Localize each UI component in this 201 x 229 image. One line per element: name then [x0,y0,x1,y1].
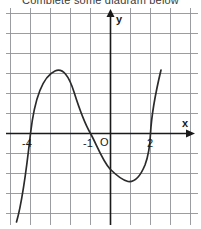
tick-label-minus4: -4 [22,137,32,149]
graph-canvas: -4 -1 2 O y x [0,0,201,229]
x-axis-label: x [182,117,189,129]
tick-label-minus1: -1 [83,137,93,149]
tick-label-2: 2 [147,137,153,149]
origin-label: O [100,136,109,148]
cubic-graph-figure: -4 -1 2 O y x [0,0,201,229]
y-axis-label: y [116,13,123,25]
y-axis [107,9,115,225]
vertical-gridlines [11,8,191,225]
horizontal-gridlines [6,14,198,214]
